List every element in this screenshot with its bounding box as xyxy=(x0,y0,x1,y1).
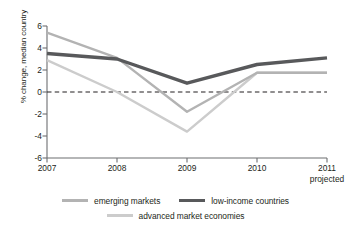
x-tick-label-2010: 2010 xyxy=(235,163,279,173)
legend-item-low-income-countries[interactable]: low-income countries xyxy=(179,196,289,206)
legend-label-low-income-countries: low-income countries xyxy=(211,196,289,206)
legend-label-advanced-market-economies: advanced market economies xyxy=(139,211,245,221)
x-tick-label-2011: 2011 xyxy=(305,163,349,173)
legend-label-emerging-markets: emerging markets xyxy=(94,196,160,206)
series-line-advanced-market-economies xyxy=(47,60,327,132)
x-tick-label-2009: 2009 xyxy=(165,163,209,173)
legend-swatch-advanced-market-economies xyxy=(107,214,133,217)
legend-row-2: advanced market economies xyxy=(0,208,351,223)
x-axis-ticks xyxy=(47,158,327,163)
x-tick-label-2008: 2008 xyxy=(95,163,139,173)
legend-swatch-emerging-markets xyxy=(62,199,88,202)
legend-swatch-low-income-countries xyxy=(179,199,205,203)
legend-item-emerging-markets[interactable]: emerging markets xyxy=(62,196,160,206)
x-tick-label-2007: 2007 xyxy=(25,163,69,173)
legend-row-1: emerging markets low-income countries xyxy=(0,193,351,208)
y-axis-ticks xyxy=(43,26,48,158)
chart-figure: % change, median country 6 4 2 0 -2 -4 -… xyxy=(0,0,351,240)
series-line-emerging-markets xyxy=(47,33,327,112)
legend-item-advanced-market-economies[interactable]: advanced market economies xyxy=(107,211,245,221)
x-tick-sublabel-projected: projected xyxy=(302,174,351,184)
chart-legend: emerging markets low-income countries ad… xyxy=(0,193,351,223)
